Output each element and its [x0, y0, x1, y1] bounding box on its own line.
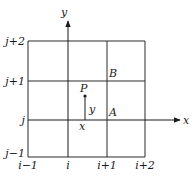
- grid: [28, 41, 145, 157]
- point-a-label: A: [108, 106, 117, 119]
- point-p-label: P: [79, 82, 88, 95]
- offset-x-label: x: [79, 120, 86, 133]
- offset-y-label: y: [88, 103, 96, 116]
- col-label-i-plus-1: i+1: [97, 159, 117, 172]
- point-b-label: B: [108, 67, 117, 80]
- y-axis-label: y: [60, 6, 68, 19]
- finite-difference-grid-diagram: x y j+2 j+1 j j−1 i−1 i i+1 i+2 P y x A …: [0, 0, 194, 182]
- row-label-j-plus-1: j+1: [2, 75, 25, 88]
- row-label-j: j: [19, 114, 26, 127]
- row-label-j-plus-2: j+2: [2, 35, 25, 48]
- col-label-i: i: [66, 159, 70, 172]
- x-axis-label: x: [183, 114, 190, 127]
- col-label-i-minus-1: i−1: [18, 159, 38, 172]
- col-label-i-plus-2: i+2: [135, 159, 155, 172]
